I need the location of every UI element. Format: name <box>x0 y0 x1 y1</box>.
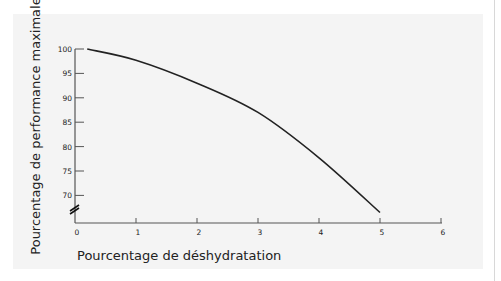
line-chart: 7075808590951000123456 <box>0 0 501 281</box>
y-tick-label: 100 <box>58 45 73 54</box>
y-tick-label: 70 <box>62 191 72 200</box>
performance-curve <box>87 49 380 212</box>
x-tick-label: 4 <box>319 228 324 237</box>
x-tick-label: 3 <box>258 228 263 237</box>
y-tick-label: 85 <box>62 118 72 127</box>
x-axis-label: Pourcentage de déshydratation <box>77 248 281 263</box>
y-axis-label: Pourcentage de performance maximale <box>28 0 43 255</box>
x-tick-label: 1 <box>136 228 141 237</box>
y-tick-label: 95 <box>62 69 72 78</box>
x-tick-label: 2 <box>197 228 202 237</box>
y-tick-label: 90 <box>62 94 72 103</box>
x-tick-label: 5 <box>380 228 385 237</box>
x-tick-label: 6 <box>441 228 446 237</box>
y-tick-label: 80 <box>62 143 72 152</box>
y-tick-label: 75 <box>62 167 72 176</box>
x-tick-label: 0 <box>75 228 80 237</box>
